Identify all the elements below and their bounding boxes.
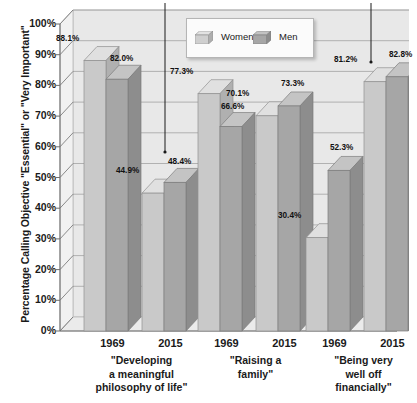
group-caption: "Developinga meaningfulphilosophy of lif…: [77, 354, 207, 395]
legend-label-men: Men: [279, 31, 297, 42]
value-label: 52.3%: [330, 143, 353, 152]
x-year-label: 1969: [313, 337, 357, 349]
value-label: 48.4%: [168, 157, 191, 166]
legend-label-women: Women: [221, 31, 254, 42]
value-label: 66.6%: [221, 102, 244, 111]
x-year-label: 2015: [149, 337, 193, 349]
group-caption: "Being verywell offfinancially": [299, 354, 417, 395]
value-label: 30.4%: [278, 211, 301, 220]
legend-swatch-women-icon: [195, 31, 213, 44]
value-label: 70.1%: [226, 89, 249, 98]
group-caption-line: well off: [299, 368, 417, 382]
legend-swatch-men-icon: [253, 31, 271, 44]
bar-men: [106, 65, 141, 331]
group-caption-line: "Being very: [299, 354, 417, 368]
group-caption-line: financially": [299, 381, 417, 395]
value-label: 44.9%: [116, 166, 139, 175]
legend: Women Men: [186, 18, 314, 58]
value-label: 81.2%: [334, 55, 357, 64]
bar-men: [220, 113, 255, 331]
bar-men: [386, 63, 409, 331]
group-caption-line: philosophy of life": [77, 381, 207, 395]
group-caption-line: a meaningful: [77, 368, 207, 382]
value-label: 77.3%: [170, 67, 193, 76]
x-year-label: 2015: [263, 337, 307, 349]
value-label: 82.8%: [389, 50, 412, 59]
bar-men: [328, 156, 363, 331]
value-label: 82.0%: [110, 54, 133, 63]
x-year-label: 1969: [91, 337, 135, 349]
x-year-label: 1969: [205, 337, 249, 349]
group-caption-line: "Developing: [77, 354, 207, 368]
x-year-label: 2015: [371, 337, 415, 349]
bar-men: [164, 168, 199, 331]
value-label: 88.1%: [56, 34, 79, 43]
value-label: 73.3%: [281, 79, 304, 88]
